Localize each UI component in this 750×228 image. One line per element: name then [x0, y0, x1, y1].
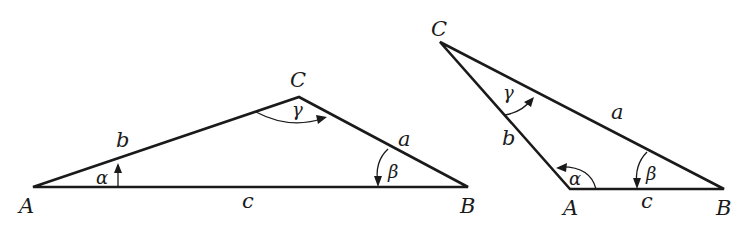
- left-alpha-arrow-icon: [114, 163, 122, 173]
- left-angle-beta: β: [387, 161, 398, 182]
- diagram-canvas: A B C b a c α γ β C A B b a c α γ β: [0, 0, 750, 228]
- right-side-c: c: [641, 189, 653, 213]
- left-beta-arrow-icon: [374, 176, 382, 187]
- right-side-a: a: [611, 100, 624, 124]
- left-vertex-B: B: [459, 194, 475, 218]
- right-beta-arrow-icon: [633, 178, 641, 189]
- left-side-b: b: [116, 128, 129, 152]
- right-triangle-outline: [440, 42, 724, 189]
- right-angle-beta: β: [645, 163, 656, 184]
- right-vertex-B: B: [715, 196, 731, 220]
- right-vertex-A: A: [561, 196, 578, 220]
- right-alpha-arrow-icon: [556, 163, 567, 172]
- right-angle-alpha: α: [569, 168, 581, 189]
- triangle-diagram: A B C b a c α γ β C A B b a c α γ β: [0, 0, 750, 228]
- left-vertex-C: C: [290, 68, 306, 92]
- right-triangle: C A B b a c α γ β: [431, 17, 731, 220]
- left-vertex-A: A: [17, 194, 34, 218]
- left-angle-gamma: γ: [292, 99, 303, 120]
- left-side-c: c: [242, 189, 254, 213]
- right-angle-gamma: γ: [503, 82, 514, 103]
- left-gamma-arrow-icon: [316, 115, 327, 124]
- left-gamma-arc: [256, 112, 324, 123]
- left-triangle: A B C b a c α γ β: [17, 68, 475, 218]
- right-vertex-C: C: [431, 17, 447, 41]
- left-side-a: a: [398, 127, 411, 151]
- right-side-b: b: [502, 126, 515, 150]
- left-angle-alpha: α: [96, 167, 108, 188]
